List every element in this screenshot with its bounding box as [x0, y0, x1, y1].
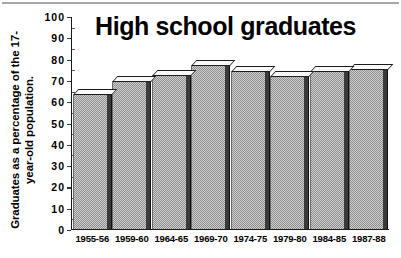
bar — [73, 94, 112, 228]
bar-top-face — [270, 71, 314, 77]
y-axis-tick-label: 100 — [44, 11, 65, 23]
bar-side-face — [225, 65, 230, 229]
bar-side-face — [186, 75, 191, 228]
y-axis-tick — [67, 102, 71, 103]
y-axis-title-line2: year-old population. — [22, 31, 36, 229]
plot-area: 0102030405060708090100 — [71, 14, 389, 230]
y-axis-tick — [67, 60, 71, 61]
y-axis-tick — [67, 38, 71, 39]
bar-top-face — [191, 60, 235, 66]
y-axis-tick-label: 0 — [58, 224, 65, 236]
y-axis-tick — [67, 230, 71, 231]
x-axis-tick-label: 1984-85 — [313, 233, 346, 244]
y-axis-tick — [67, 145, 71, 146]
x-axis-tick-labels: 1955-561959-601964-651969-701974-751979-… — [71, 233, 389, 249]
bar-side-face — [304, 76, 309, 228]
y-axis-title-line1: Graduates as a percentage of the 17- — [9, 31, 21, 229]
bar-top-face — [310, 66, 354, 72]
bar — [231, 71, 270, 229]
x-axis-tick-label: 1959-60 — [115, 233, 148, 244]
bar-series — [73, 16, 389, 229]
y-axis-tick-label: 40 — [51, 139, 65, 151]
y-axis-tick-label: 70 — [51, 75, 65, 87]
bar-top-face — [112, 76, 156, 82]
x-axis-tick-label: 1974-75 — [234, 233, 267, 244]
bar — [349, 69, 388, 229]
x-axis-tick-label: 1964-65 — [155, 233, 188, 244]
y-axis-tick-label: 60 — [51, 96, 65, 108]
bar-side-face — [146, 81, 151, 229]
bar-top-face — [231, 66, 275, 72]
bar — [112, 81, 151, 229]
y-axis-tick-label: 10 — [51, 203, 65, 215]
y-axis-tick-label: 30 — [51, 160, 65, 172]
x-axis-tick-label: 1987-88 — [352, 233, 385, 244]
bar-side-face — [383, 69, 388, 229]
y-axis-tick — [67, 187, 71, 188]
y-axis-title: Graduates as a percentage of the 17- yea… — [2, 16, 42, 244]
y-axis-tick-label: 90 — [51, 32, 65, 44]
y-axis-tick — [67, 81, 71, 82]
bar-top-face — [152, 70, 196, 76]
y-axis-tick — [67, 124, 71, 125]
x-axis-tick-label: 1955-56 — [76, 233, 109, 244]
bar — [270, 76, 309, 228]
y-axis-tick-label: 20 — [51, 181, 65, 193]
x-axis-tick-label: 1979-80 — [273, 233, 306, 244]
bar-side-face — [265, 71, 270, 229]
bar-top-face — [349, 64, 393, 70]
y-axis-title-text: Graduates as a percentage of the 17- yea… — [8, 31, 36, 229]
bar-side-face — [344, 71, 349, 229]
bar — [191, 65, 230, 229]
bar — [310, 71, 349, 229]
y-axis-tick — [67, 17, 71, 18]
y-axis-tick — [67, 166, 71, 167]
x-axis-line — [71, 229, 389, 230]
chart-figure: Graduates as a percentage of the 17- yea… — [0, 0, 401, 258]
y-axis-tick-label: 50 — [51, 118, 65, 130]
y-axis-tick-label: 80 — [51, 54, 65, 66]
top-divider-rule — [2, 2, 399, 4]
x-axis-tick-label: 1969-70 — [194, 233, 227, 244]
bar-side-face — [107, 94, 112, 228]
y-axis-tick — [67, 209, 71, 210]
bar — [152, 75, 191, 228]
bar-top-face — [73, 89, 117, 95]
